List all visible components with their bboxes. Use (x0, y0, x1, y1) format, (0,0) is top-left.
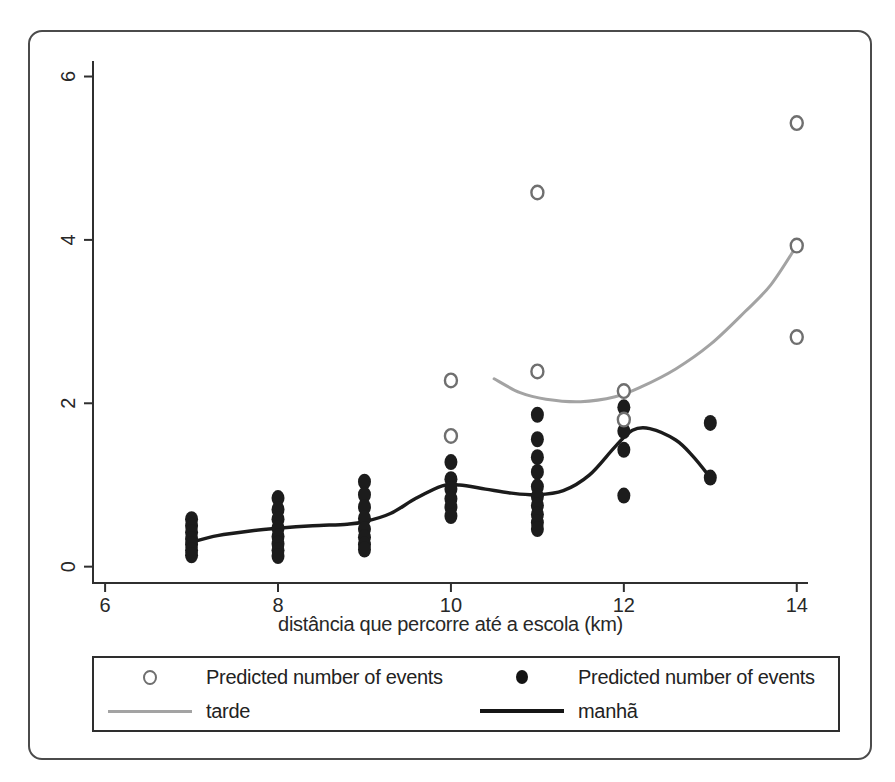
legend-label: manhã (578, 700, 638, 723)
tarde-scatter-point (531, 365, 543, 379)
legend-label: Predicted number of events (206, 666, 443, 689)
legend-entry-tarde-line: tarde (94, 694, 466, 728)
legend-entry-tarde-points: Predicted number of events (94, 660, 466, 694)
tarde-scatter-point (791, 330, 803, 344)
tarde-scatter-point (445, 374, 457, 388)
tarde-scatter-point (531, 186, 543, 200)
manha-scatter-point (531, 431, 544, 447)
manha-scatter-point (617, 442, 630, 458)
filled-circle-marker (516, 670, 528, 684)
manha-scatter-point (185, 547, 198, 563)
y-tick-label: 0 (57, 561, 79, 572)
open-circle-marker (143, 670, 157, 685)
black-line-icon (466, 709, 578, 713)
manha-scatter-point (531, 407, 544, 423)
tarde-scatter-point (618, 384, 630, 398)
legend-label: tarde (206, 700, 250, 723)
gray-line-swatch (108, 710, 192, 713)
gray-line-icon (94, 710, 206, 713)
legend-entry-manha-points: Predicted number of events (466, 660, 838, 694)
filled-circle-icon (466, 670, 578, 684)
y-tick-label: 4 (57, 234, 79, 245)
tarde-scatter-point (618, 413, 630, 427)
tarde-scatter-point (791, 116, 803, 130)
black-line-swatch (480, 709, 564, 713)
tarde-scatter-point (791, 239, 803, 253)
tarde-scatter-point (445, 429, 457, 443)
manha-scatter-point (531, 449, 544, 465)
scatter-plot: 024668101214 (0, 0, 895, 660)
manha-scatter-point (444, 508, 457, 524)
manha-scatter-point (704, 415, 717, 431)
manha-scatter-point (531, 521, 544, 537)
y-tick-label: 6 (57, 71, 79, 82)
legend-entry-manha-line: manhã (466, 694, 838, 728)
legend: Predicted number of events Predicted num… (92, 656, 840, 732)
manha-scatter-point (704, 470, 717, 486)
manha-scatter-point (272, 548, 285, 564)
x-axis-title: distância que percorre até a escola (km) (93, 613, 808, 636)
y-tick-label: 2 (57, 398, 79, 409)
manha-scatter-point (358, 542, 371, 558)
manha-scatter-point (531, 464, 544, 480)
manha-scatter-point (444, 454, 457, 470)
open-circle-icon (94, 670, 206, 685)
legend-label: Predicted number of events (578, 666, 815, 689)
manha-scatter-point (617, 488, 630, 504)
